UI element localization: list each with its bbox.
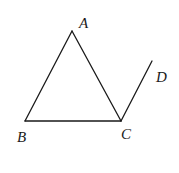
label-b: B bbox=[17, 129, 26, 145]
label-d: D bbox=[155, 69, 167, 85]
segment-cd bbox=[121, 61, 152, 121]
geometry-diagram: A B C D bbox=[0, 0, 179, 173]
diagram-svg: A B C D bbox=[0, 0, 179, 173]
label-c: C bbox=[121, 126, 132, 142]
label-a: A bbox=[78, 15, 89, 31]
segment-ab bbox=[25, 31, 72, 121]
segment-ca bbox=[72, 31, 121, 121]
